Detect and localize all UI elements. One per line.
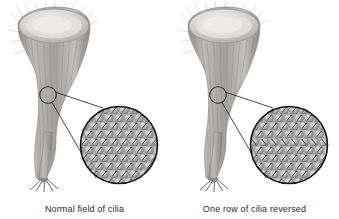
caption-normal-field: Normal field of cilia <box>0 204 169 215</box>
callout-source-circle-reversed <box>210 87 226 103</box>
panel-normal-illustration <box>0 0 169 196</box>
magnified-cilia-field-reversed <box>245 106 329 186</box>
reversed-row-artwork <box>170 0 339 196</box>
normal-field-artwork <box>0 0 169 196</box>
caption-reversed-row: One row of cilia reversed <box>170 204 339 215</box>
callout-source-circle-normal <box>40 87 56 103</box>
panel-reversed-illustration <box>170 0 339 196</box>
cilia-comparison-figure: Normal field of cilia <box>0 0 339 219</box>
magnified-cilia-field-normal <box>75 106 159 186</box>
panel-reversed-row: One row of cilia reversed <box>170 0 339 219</box>
panel-normal-field: Normal field of cilia <box>0 0 169 219</box>
